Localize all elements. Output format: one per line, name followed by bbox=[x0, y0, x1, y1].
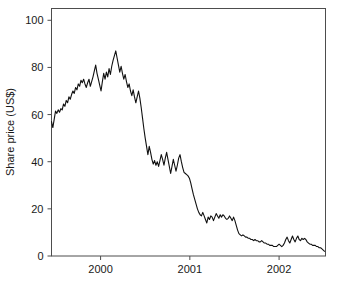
chart-canvas: 020406080100 200020012002 Share price (U… bbox=[0, 0, 342, 291]
share-price-chart-figure: 020406080100 200020012002 Share price (U… bbox=[0, 0, 342, 291]
y-tick-label: 60 bbox=[31, 109, 43, 121]
y-tick-label: 0 bbox=[37, 250, 43, 262]
y-tick-label: 20 bbox=[31, 203, 43, 215]
x-tick-label: 2001 bbox=[178, 263, 202, 275]
y-tick-label: 80 bbox=[31, 61, 43, 73]
x-tick-label: 2002 bbox=[267, 263, 291, 275]
y-tick-label: 40 bbox=[31, 156, 43, 168]
y-tick-label: 100 bbox=[25, 14, 43, 26]
y-axis-title: Share price (US$) bbox=[4, 88, 16, 176]
x-tick-label: 2000 bbox=[88, 263, 112, 275]
